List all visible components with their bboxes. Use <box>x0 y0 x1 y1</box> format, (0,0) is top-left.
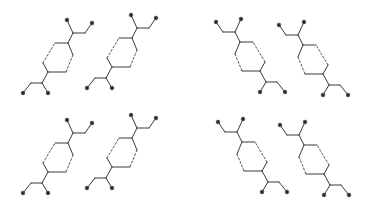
oxygen-atom <box>321 93 325 97</box>
oxygen-atom <box>216 120 220 124</box>
oxygen-atom <box>85 186 89 190</box>
oxygen-atom <box>347 193 351 197</box>
oxygen-atom <box>90 21 94 25</box>
oxygen-atom <box>303 120 307 124</box>
oxygen-atom <box>46 191 50 195</box>
oxygen-atom <box>110 186 114 190</box>
oxygen-atom <box>302 20 306 24</box>
oxygen-atom <box>129 113 133 117</box>
oxygen-atom <box>65 118 69 122</box>
oxygen-atom <box>322 193 326 197</box>
oxygen-atom <box>214 20 218 24</box>
oxygen-atom <box>21 91 25 95</box>
oxygen-atom <box>346 93 350 97</box>
oxygen-atom <box>285 190 289 194</box>
oxygen-atom <box>241 117 245 121</box>
oxygen-atom <box>46 91 50 95</box>
molecular-packing-diagram <box>0 0 372 208</box>
oxygen-atom <box>239 17 243 21</box>
oxygen-atom <box>154 16 158 20</box>
oxygen-atom <box>258 90 262 94</box>
oxygen-atom <box>283 90 287 94</box>
oxygen-atom <box>277 23 281 27</box>
oxygen-atom <box>90 121 94 125</box>
oxygen-atom <box>129 13 133 17</box>
oxygen-atom <box>278 123 282 127</box>
oxygen-atom <box>85 86 89 90</box>
diagram-background <box>0 0 372 208</box>
oxygen-atom <box>154 116 158 120</box>
oxygen-atom <box>260 190 264 194</box>
oxygen-atom <box>110 86 114 90</box>
oxygen-atom <box>21 191 25 195</box>
oxygen-atom <box>65 18 69 22</box>
